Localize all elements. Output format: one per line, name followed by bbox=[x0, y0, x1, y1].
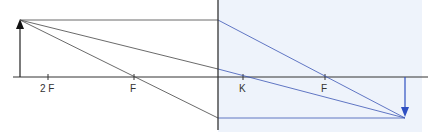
ray-focal-incident bbox=[20, 20, 218, 118]
label-f-left: F bbox=[130, 83, 136, 94]
lens-diagram: 2 F F K F bbox=[0, 0, 437, 137]
label-2f-left: 2 F bbox=[40, 83, 54, 94]
label-f-right: F bbox=[321, 83, 327, 94]
label-k-right: K bbox=[239, 83, 246, 94]
ray-central-incident bbox=[20, 20, 218, 69]
image-region-background bbox=[218, 0, 422, 132]
